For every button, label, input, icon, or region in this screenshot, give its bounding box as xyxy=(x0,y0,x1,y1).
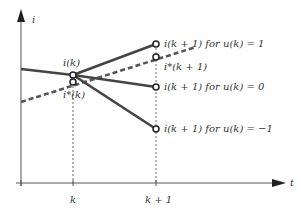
label-istar-k: i*(k) xyxy=(63,89,85,100)
branch-um1-line xyxy=(73,75,156,129)
x-axis-label: t xyxy=(290,177,295,188)
point-istar-k1-marker xyxy=(153,54,159,60)
point-ik1-u1-marker xyxy=(153,41,159,47)
tick-label-k1: k + 1 xyxy=(145,194,172,205)
label-ik1-u1: i(k + 1) for u(k) = 1 xyxy=(164,38,264,49)
point-ik-marker xyxy=(70,72,76,78)
label-ik1-u0: i(k + 1) for u(k) = 0 xyxy=(164,81,265,92)
label-ik1-um1: i(k + 1) for u(k) = −1 xyxy=(164,123,273,134)
y-axis-label: i xyxy=(32,14,35,25)
past-trajectory-line xyxy=(21,69,73,75)
label-istar-k1: i*(k + 1) xyxy=(164,61,207,72)
point-ik1-um1-marker xyxy=(153,126,159,132)
x-axis-arrow-icon xyxy=(272,179,286,187)
y-axis-arrow-icon xyxy=(17,9,25,22)
point-ik1-u0-marker xyxy=(153,84,159,90)
tick-label-k: k xyxy=(70,194,76,205)
reference-trajectory-line xyxy=(21,47,196,102)
point-istar-k-marker xyxy=(70,79,76,85)
branch-u1-line xyxy=(73,44,156,75)
diagram-canvas: i t k k + 1 i(k) i*(k) i(k + 1) for u(k)… xyxy=(0,0,301,210)
label-ik: i(k) xyxy=(63,57,80,68)
